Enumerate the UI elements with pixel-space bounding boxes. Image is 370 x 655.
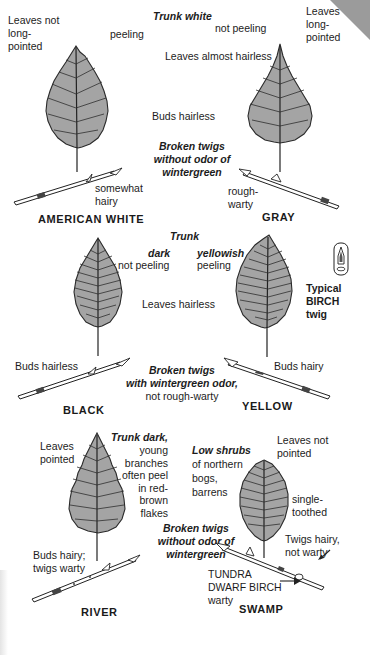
typical-birch-twig-label: Typical BIRCH twig (306, 282, 341, 321)
tundra-dwarf-birch-note: warty (208, 594, 233, 607)
yellow-twig-illustration (226, 358, 336, 402)
species-name-yellow: YELLOW (242, 400, 293, 412)
swamp-habitat-note: of northern bogs, barrens (192, 457, 243, 499)
twig-note-arrow-icon (318, 549, 332, 561)
top-twigs-note: Broken twigs without odor of wintergreen (136, 140, 248, 179)
american-white-leaf-illustration (40, 44, 140, 174)
top-leaves-note: Leaves almost hairless (165, 50, 272, 63)
american-white-trunk-note: peeling (110, 28, 144, 41)
top-trunk-heading: Trunk white (153, 10, 212, 23)
middle-trunk-heading: Trunk (170, 230, 199, 243)
gray-trunk-note: not peeling (215, 22, 266, 35)
gray-twig-note: rough- warty (228, 185, 258, 211)
field-guide-page: Leaves not long- pointed peeling Trunk w… (0, 0, 370, 655)
species-name-river: RIVER (81, 606, 118, 618)
swamp-leaf-note: Leaves not pointed (277, 434, 328, 460)
river-trunk-note: young branches often peel in red- brown … (100, 444, 168, 520)
black-twig-illustration (16, 358, 126, 402)
gray-leaf-note: Leaves long- pointed (306, 5, 340, 44)
species-name-american-white: AMERICAN WHITE (38, 213, 144, 225)
black-leaf-illustration (58, 238, 138, 358)
typical-birch-twig-icon (333, 242, 349, 276)
river-leaf-note: Leaves pointed (40, 440, 74, 466)
swamp-habitat-bold: Low shrubs (192, 444, 251, 457)
river-twig-illustration (30, 555, 140, 605)
american-white-twig-note: somewhat hairy (95, 182, 143, 208)
species-name-gray: GRAY (262, 211, 295, 223)
species-name-black: BLACK (63, 404, 105, 416)
tundra-birch-arrow-icon (280, 576, 302, 586)
american-white-leaf-note: Leaves not long- pointed (8, 14, 59, 53)
yellow-trunk-note: peeling (197, 259, 231, 272)
gray-leaf-illustration (240, 44, 320, 174)
top-buds-note: Buds hairless (152, 110, 215, 123)
river-trunk-note-bold: Trunk dark, (100, 431, 168, 444)
black-trunk-note: not peeling (118, 259, 169, 272)
swamp-tooth-note: single- toothed (292, 493, 327, 519)
species-name-swamp: SWAMP (239, 603, 284, 615)
middle-leaves-note: Leaves hairless (142, 298, 215, 311)
tundra-dwarf-birch-label: TUNDRA DWARF BIRCH (208, 568, 282, 594)
page-edge-shadow (0, 570, 8, 655)
